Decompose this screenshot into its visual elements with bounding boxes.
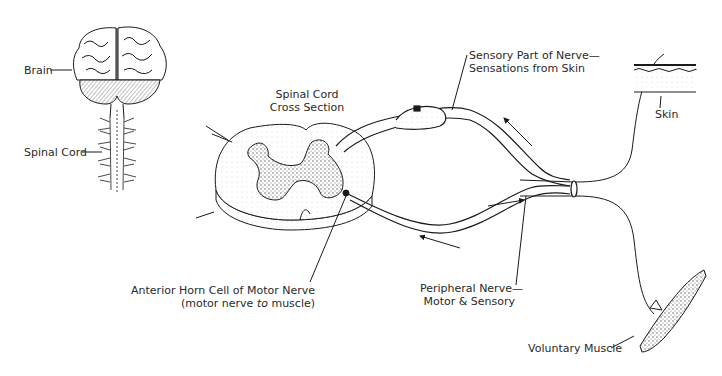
peripheral-nerve-label: Peripheral Nerve— Motor & Sensory [420,282,515,308]
brain-label: Brain [24,64,53,77]
peripheral-leader-line [516,196,526,285]
anterior-horn-label-part-a: (motor nerve [181,297,257,310]
cross-section-label: Spinal Cord Cross Section [262,88,352,114]
cross-section-illustration [196,123,375,230]
spinal-cord-illustration [98,110,136,192]
spinal-cord-label: Spinal Cord [24,146,87,159]
nervous-system-diagram [0,0,722,376]
peripheral-nerve-label-line1: Peripheral Nerve— [420,282,515,295]
peripheral-nerve-label-line2: Motor & Sensory [420,295,515,308]
nerve-pathway [336,54,664,314]
skin-illustration [634,64,696,92]
skin-label: Skin [655,108,678,121]
cross-section-label-line1: Spinal Cord [262,88,352,101]
sensory-nerve-label: Sensory Part of Nerve— Sensations from S… [469,49,600,75]
anterior-horn-label-emphasis: to [257,297,268,310]
sensory-nerve-label-line1: Sensory Part of Nerve— [469,49,600,62]
cross-section-label-line2: Cross Section [262,101,352,114]
motor-arrow-lower [420,236,460,248]
skin-leader-line [660,96,661,108]
sensory-nerve-label-line2: Sensations from Skin [469,62,600,75]
signal-direction-arrows [420,118,532,248]
voluntary-muscle-label: Voluntary Muscle [528,342,622,355]
sensory-leader-line [452,55,467,110]
anterior-horn-label-line2: (motor nerve to muscle) [120,297,315,310]
sensory-arrow [504,118,532,146]
anterior-horn-label-line1: Anterior Horn Cell of Motor Nerve [120,284,315,297]
brain-illustration [73,27,166,118]
anterior-horn-label: Anterior Horn Cell of Motor Nerve (motor… [120,284,315,310]
anterior-horn-label-part-b: muscle) [268,297,315,310]
muscle-illustration [640,270,706,352]
